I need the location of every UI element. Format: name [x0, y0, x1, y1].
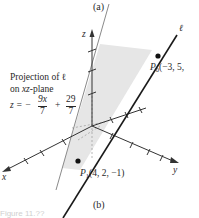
- projection-diagram: (a) (b) Figure 11.?? z x y ℓ P0(−3, 5, P…: [0, 0, 199, 218]
- frac1-den: 7: [40, 107, 45, 117]
- y-axis-label: y: [173, 166, 177, 176]
- figure-number: Figure 11.??: [0, 210, 44, 218]
- projection-frac1: 9x 7: [38, 95, 47, 117]
- projection-eq-lhs: z = −: [10, 101, 31, 111]
- projection-frac2: 29 7: [66, 95, 76, 117]
- projection-plane: [62, 44, 152, 170]
- point-p0: [155, 53, 160, 58]
- z-axis-arrow-icon: [90, 29, 95, 37]
- frac2-num: 29: [66, 95, 76, 105]
- p0-coords: (−3, 5,: [159, 62, 184, 72]
- y-axis: [92, 126, 173, 161]
- p0-label: P0(−3, 5,: [150, 63, 184, 74]
- projection-line2: on xz-plane: [10, 85, 54, 95]
- projection-line2-suffix: -plane: [30, 84, 54, 94]
- x-axis-label: x: [2, 173, 6, 183]
- p1-coords: (4, 2, −1): [89, 168, 124, 178]
- line-ell-label: ℓ: [179, 24, 183, 34]
- frac1-num: 9x: [38, 95, 47, 105]
- caption-b: (b): [93, 200, 105, 210]
- projection-line2-prefix: on: [10, 84, 22, 94]
- y-axis-arrow-icon: [170, 157, 179, 163]
- z-axis-label: z: [82, 30, 86, 40]
- projection-plus: +: [55, 101, 60, 111]
- p1-label: P1(4, 2, −1): [80, 169, 125, 180]
- projection-line2-var: xz: [22, 84, 30, 94]
- projection-line1: Projection of ℓ: [10, 73, 66, 83]
- point-p1: [75, 158, 80, 163]
- frac2-den: 7: [68, 107, 73, 117]
- caption-a: (a): [93, 2, 104, 12]
